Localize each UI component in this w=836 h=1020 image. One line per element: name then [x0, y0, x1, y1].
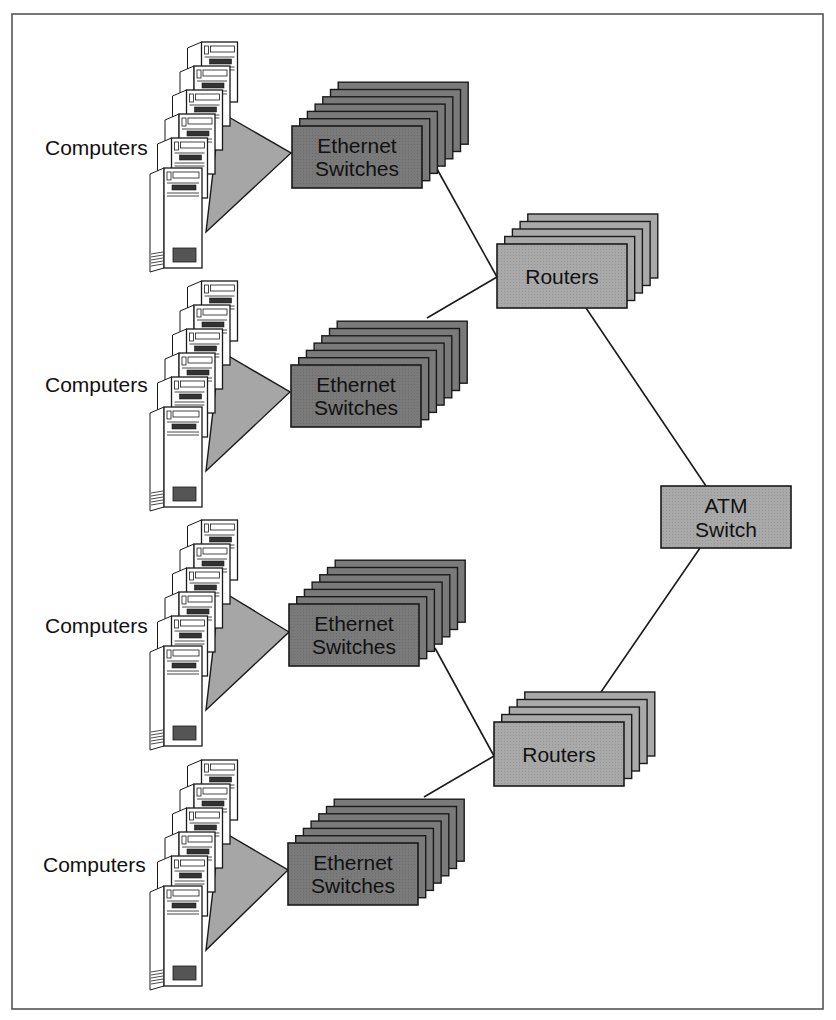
computer-tower-icon	[150, 886, 202, 990]
link-ethernet-switches-3-to-routers-2	[435, 648, 494, 756]
routers-label: Routers	[522, 743, 596, 766]
diagram-canvas: ComputersComputersComputersComputers Eth…	[0, 0, 836, 1020]
computer-tower-icon	[150, 646, 202, 750]
network-diagram: ComputersComputersComputersComputers Eth…	[0, 0, 836, 1020]
routers-2: Routers	[494, 692, 655, 786]
computers-label: Computers	[45, 373, 148, 396]
routers-1: Routers	[497, 214, 658, 308]
routers-layer: RoutersRouters	[494, 214, 658, 786]
ethernet-label-line2: Switches	[314, 396, 398, 419]
computers-1: Computers	[45, 42, 291, 272]
computers-2: Computers	[45, 281, 290, 511]
ethernet-label-line2: Switches	[315, 157, 399, 180]
ethernet-label-line1: Ethernet	[317, 134, 397, 157]
ethernet-switches-4: EthernetSwitches	[288, 799, 464, 905]
link-ethernet-switches-4-to-routers-2	[424, 756, 494, 797]
link-atm-switch-to-routers-2	[601, 548, 700, 692]
ethernet-label-line2: Switches	[312, 635, 396, 658]
ethernet-label-line1: Ethernet	[313, 851, 393, 874]
computer-tower-icon	[150, 407, 202, 511]
ethernet-label-line1: Ethernet	[314, 612, 394, 635]
link-ethernet-switches-2-to-routers-1	[427, 277, 497, 318]
atm-label-line2: Switch	[695, 518, 757, 541]
computers-4: Computers	[43, 760, 288, 990]
link-ethernet-switches-1-to-routers-1	[437, 169, 497, 277]
ethernet-switches-1: EthernetSwitches	[292, 82, 468, 188]
routers-label: Routers	[525, 265, 599, 288]
computers-layer: ComputersComputersComputersComputers	[43, 42, 291, 990]
computer-tower-icon	[150, 168, 202, 272]
ethernet-switches-3: EthernetSwitches	[289, 560, 465, 666]
computers-3: Computers	[45, 520, 289, 750]
computers-label: Computers	[45, 614, 148, 637]
ethernet-switches-2: EthernetSwitches	[291, 321, 467, 427]
ethernet-label-line2: Switches	[311, 874, 395, 897]
atm-switch-layer: ATMSwitch	[661, 486, 791, 548]
ethernet-label-line1: Ethernet	[316, 373, 396, 396]
ethernet-switches-layer: EthernetSwitchesEthernetSwitchesEthernet…	[288, 82, 468, 905]
atm-label-line1: ATM	[705, 494, 748, 517]
computers-label: Computers	[43, 853, 146, 876]
computers-label: Computers	[45, 136, 148, 159]
atm-switch: ATMSwitch	[661, 486, 791, 548]
link-routers-1-to-atm-switch	[586, 308, 706, 486]
